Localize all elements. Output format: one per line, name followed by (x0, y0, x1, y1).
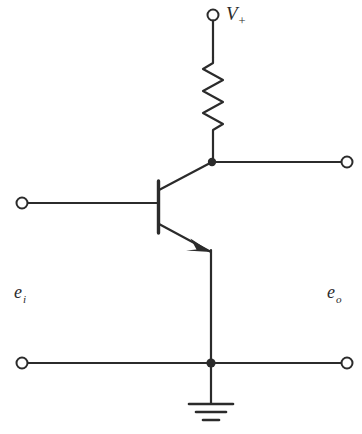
supply-label: V+ (226, 4, 246, 27)
output-terminal-top-circle (342, 157, 353, 168)
transistor-collector-lead (159, 162, 212, 190)
input-label-symbol: e (14, 282, 22, 302)
input-label: ei (14, 283, 26, 305)
supply-label-symbol: V (226, 3, 238, 24)
resistor-zigzag (203, 57, 223, 162)
output-terminal-bottom-circle (342, 358, 353, 369)
input-terminal-circle (17, 198, 28, 209)
supply-label-subscript: + (238, 14, 246, 28)
output-label: eo (327, 283, 342, 305)
input-label-subscript: i (22, 293, 26, 305)
input-return-terminal-circle (17, 358, 28, 369)
output-label-symbol: e (327, 282, 335, 302)
output-label-subscript: o (335, 293, 342, 305)
supply-terminal-circle (208, 10, 219, 21)
schematic-canvas (0, 0, 362, 434)
circuit-diagram: V+ ei eo (0, 0, 362, 434)
